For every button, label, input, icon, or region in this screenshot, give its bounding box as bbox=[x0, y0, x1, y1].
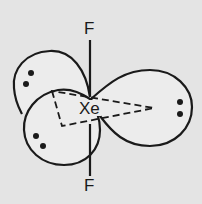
xef2-diagram: F Xe F bbox=[0, 0, 202, 204]
label-f-bottom: F bbox=[84, 176, 94, 196]
diagram-svg bbox=[0, 0, 202, 204]
label-xe: Xe bbox=[79, 99, 100, 119]
label-f-top: F bbox=[84, 19, 94, 39]
lone-pair-lobe-right bbox=[91, 70, 192, 146]
